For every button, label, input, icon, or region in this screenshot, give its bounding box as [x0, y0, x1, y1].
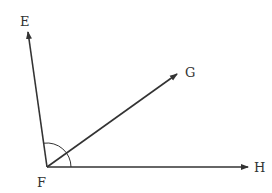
angle-diagram: E G H F [0, 0, 272, 193]
diagram-svg: E G H F [0, 0, 272, 193]
point-label-g: G [185, 65, 195, 80]
angle-arc-efh [44, 143, 71, 167]
point-label-h: H [254, 160, 265, 175]
vertex-label-f: F [37, 175, 46, 190]
point-label-e: E [20, 14, 30, 29]
ray-fe [28, 32, 47, 167]
